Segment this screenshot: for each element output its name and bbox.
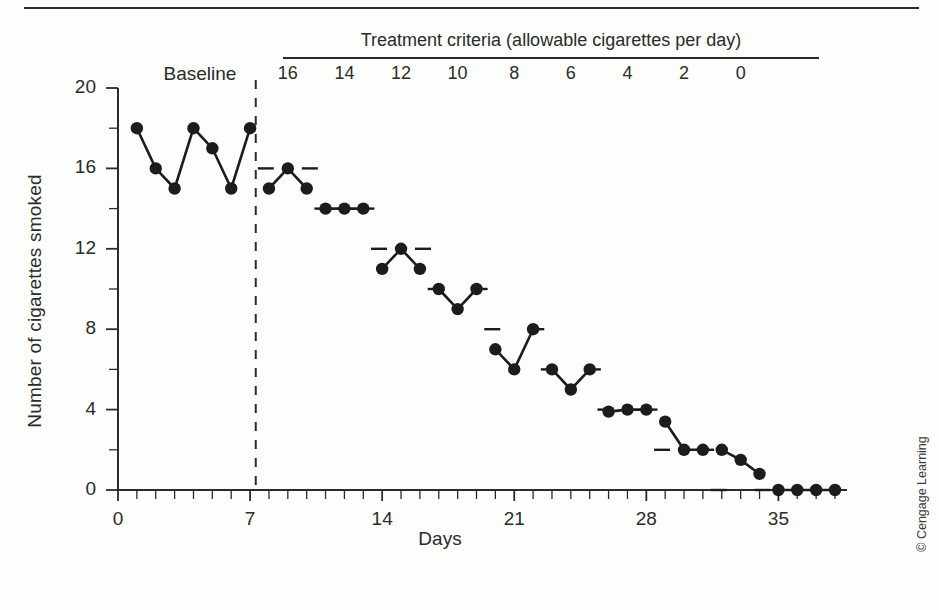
x-axis-tick-label: 0 xyxy=(93,508,143,530)
series-line xyxy=(137,128,250,188)
data-point-marker xyxy=(659,415,671,427)
data-point-marker xyxy=(282,162,294,174)
y-axis-tick-label: 20 xyxy=(56,76,96,98)
data-point-marker xyxy=(338,202,350,214)
data-series xyxy=(546,363,596,396)
y-axis-tick-label: 0 xyxy=(56,478,96,500)
data-series xyxy=(376,243,426,275)
data-point-marker xyxy=(376,263,388,275)
data-point-marker xyxy=(150,162,162,174)
data-series xyxy=(131,122,257,195)
data-series xyxy=(716,444,766,481)
y-axis-tick-label: 12 xyxy=(56,237,96,259)
data-point-marker xyxy=(791,484,803,496)
data-point-marker xyxy=(829,484,841,496)
data-point-marker xyxy=(470,283,482,295)
criterion-level-dashes xyxy=(258,168,771,490)
data-point-marker xyxy=(716,444,728,456)
data-series-group xyxy=(131,122,842,496)
data-point-marker xyxy=(565,383,577,395)
data-point-marker xyxy=(810,484,822,496)
x-axis-tick-label: 14 xyxy=(357,508,407,530)
y-axis-title: Number of cigarettes smoked xyxy=(24,131,46,471)
data-point-marker xyxy=(678,444,690,456)
data-series xyxy=(772,484,841,496)
data-point-marker xyxy=(621,403,633,415)
data-point-marker xyxy=(168,182,180,194)
y-axis-tick-label: 16 xyxy=(56,156,96,178)
data-point-marker xyxy=(225,182,237,194)
x-axis-tick-label: 35 xyxy=(753,508,803,530)
data-point-marker xyxy=(206,142,218,154)
x-axis-title: Days xyxy=(0,528,880,550)
data-series xyxy=(602,403,652,417)
data-point-marker xyxy=(300,182,312,194)
data-point-marker xyxy=(451,303,463,315)
data-point-marker xyxy=(772,484,784,496)
data-point-marker xyxy=(602,405,614,417)
data-point-marker xyxy=(433,283,445,295)
data-point-marker xyxy=(734,454,746,466)
data-point-marker xyxy=(489,343,501,355)
y-axis-tick-label: 8 xyxy=(56,317,96,339)
x-axis-tick-label: 28 xyxy=(621,508,671,530)
data-series xyxy=(319,202,369,214)
data-point-marker xyxy=(131,122,143,134)
data-point-marker xyxy=(395,243,407,255)
data-series xyxy=(433,283,483,316)
data-point-marker xyxy=(584,363,596,375)
copyright-credit: © Cengage Learning xyxy=(915,419,929,569)
data-series xyxy=(263,162,313,195)
data-point-marker xyxy=(508,363,520,375)
data-point-marker xyxy=(357,202,369,214)
data-series xyxy=(489,323,539,376)
data-point-marker xyxy=(697,444,709,456)
data-point-marker xyxy=(187,122,199,134)
x-axis-tick-label: 21 xyxy=(489,508,539,530)
data-point-marker xyxy=(244,122,256,134)
data-point-marker xyxy=(753,468,765,480)
data-point-marker xyxy=(263,182,275,194)
data-point-marker xyxy=(640,403,652,415)
data-point-marker xyxy=(319,202,331,214)
data-point-marker xyxy=(546,363,558,375)
x-axis-tick-label: 7 xyxy=(225,508,275,530)
y-axis-tick-label: 4 xyxy=(56,398,96,420)
data-point-marker xyxy=(414,263,426,275)
data-point-marker xyxy=(527,323,539,335)
figure-container: Treatment criteria (allowable cigarettes… xyxy=(0,0,939,610)
